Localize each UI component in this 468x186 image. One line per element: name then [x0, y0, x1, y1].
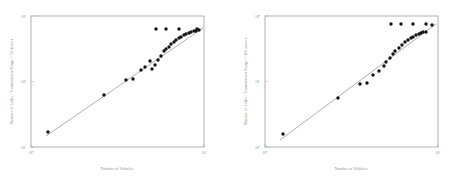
x-tick-right: 103 [436, 150, 442, 155]
data-points [281, 22, 433, 135]
x-axis-title: Number of Vehicles [335, 167, 368, 171]
x-tick-right: 103 [202, 150, 208, 155]
y-tick-top: 103 [21, 14, 27, 19]
plot-frame [31, 16, 204, 147]
y-tick-bottom: 101 [21, 145, 27, 150]
panel-left: 103 102 101 102 103 Number of Vehicles N… [0, 0, 234, 186]
fit-line [280, 24, 436, 140]
x-axis-title: Number of Vehicles [101, 167, 134, 171]
y-tick-mid: 103 [255, 79, 261, 84]
data-points [46, 27, 200, 133]
y-axis-title: Number of Links / Transmission Range = 5… [10, 38, 14, 124]
y-tick-mid: 102 [21, 79, 27, 84]
fit-line [46, 28, 203, 136]
figure-container: 103 102 101 102 103 Number of Vehicles N… [0, 0, 468, 186]
x-tick-left: 102 [263, 150, 269, 155]
y-tick-bottom: 102 [255, 145, 261, 150]
y-tick-top: 104 [255, 14, 261, 19]
y-axis-ticks [265, 16, 268, 147]
panel-left-plot: 103 102 101 102 103 Number of Vehicles N… [0, 0, 234, 186]
panel-right-plot: 104 103 102 102 103 Number of Vehicles N… [234, 0, 468, 186]
y-axis-title: Number of Links / Transmission Range = 1… [244, 37, 248, 125]
panel-right: 104 103 102 102 103 Number of Vehicles N… [234, 0, 468, 186]
x-tick-left: 102 [29, 150, 35, 155]
